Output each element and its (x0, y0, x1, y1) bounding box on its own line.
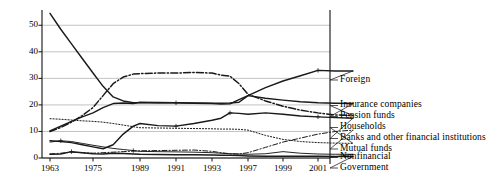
data-series-lines (50, 13, 353, 156)
series-line-foreign (50, 13, 353, 104)
data-point-marker (174, 101, 178, 105)
y-tick-label-0: 0 (14, 152, 38, 162)
x-tick-label-1991: 1991 (160, 163, 192, 173)
x-tick-label-2001: 2001 (302, 163, 334, 173)
legend-item-nonfinancial: Nonfinancial (340, 151, 391, 161)
y-tick-label-30: 30 (14, 72, 38, 82)
data-point-marker (316, 68, 320, 72)
line-chart-plot (0, 0, 491, 190)
y-tick-label-40: 40 (14, 46, 38, 56)
series-line-pension-funds (50, 96, 353, 131)
legend-item-insurance-companies: Insurance companies (340, 99, 422, 109)
legend-item-government: Government (340, 162, 389, 172)
y-tick-label-20: 20 (14, 99, 38, 109)
data-point-marker (174, 124, 178, 128)
x-tick-label-1963: 1963 (34, 163, 66, 173)
y-tick-label-10: 10 (14, 125, 38, 135)
data-point-marker (131, 148, 135, 152)
series-line-banks-and-other-financial-institutions (50, 113, 353, 149)
gridlines (42, 25, 330, 158)
y-tick-label-50: 50 (14, 19, 38, 29)
legend-item-households: Households (340, 121, 386, 131)
x-tick-label-1993: 1993 (196, 163, 228, 173)
legend-item-banks-and-other-financial-institutions: Banks and other financial institutions (340, 132, 486, 142)
chart-container: 50403020100 1963197519891991199319971999… (0, 0, 491, 190)
legend-item-pension-funds: Pension funds (340, 110, 395, 120)
x-tick-label-1975: 1975 (77, 163, 109, 173)
data-point-marker (69, 149, 73, 153)
x-tick-label-1999: 1999 (267, 163, 299, 173)
data-point-marker (316, 115, 320, 119)
x-tick-label-1997: 1997 (232, 163, 264, 173)
x-tick-label-1989: 1989 (124, 163, 156, 173)
legend-item-foreign: Foreign (340, 74, 370, 84)
